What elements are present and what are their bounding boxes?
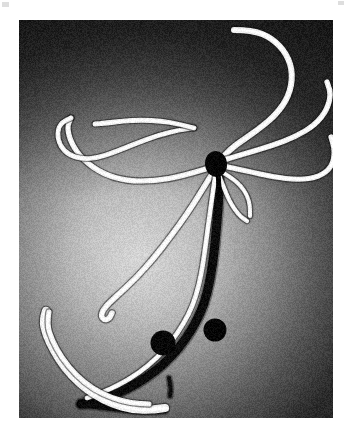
micrograph-alt-text: Electron micrograph of filamentous stran… [0,0,1,1]
corner-artifact-top-right [338,1,344,5]
figure-page: Electron micrograph of filamentous stran… [0,0,354,439]
micrograph-image [19,20,333,418]
corner-artifact-top-left [2,2,9,7]
figure-caption [0,0,1,1]
micrograph-canvas [19,20,333,418]
